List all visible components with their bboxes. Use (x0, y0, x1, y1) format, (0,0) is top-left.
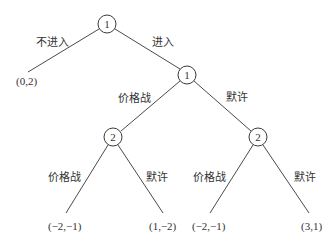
edge-label-not-enter: 不进入 (36, 36, 69, 49)
decision-node-root: 1 (98, 15, 116, 33)
node-player-label: 2 (255, 131, 261, 143)
edge-n1-price-war (121, 81, 180, 131)
game-tree-diagram: 1 1 2 2 不进入 进入 价格战 默许 价格战 默许 价格战 默许 (0,2… (0, 0, 335, 243)
node-player-label: 2 (110, 131, 116, 143)
edge-label-price-war: 价格战 (193, 170, 226, 184)
payoff-leaf: (0,2) (16, 75, 37, 88)
edge-label-acquiesce: 默许 (146, 171, 168, 184)
edge-label-acquiesce: 默许 (226, 91, 248, 104)
edge-label-price-war: 价格战 (48, 170, 81, 184)
payoff-leaf: (−2,−1) (192, 220, 226, 233)
edge-label-acquiesce: 默许 (294, 171, 316, 184)
payoff-leaf: (1,−2) (149, 220, 177, 233)
decision-node-n2b: 2 (249, 128, 267, 146)
node-player-label: 1 (184, 69, 190, 81)
edge-root-enter (115, 29, 180, 69)
edge-label-enter: 进入 (152, 36, 174, 49)
node-player-label: 1 (104, 18, 110, 30)
payoff-leaf: (3,1) (301, 220, 322, 233)
payoff-leaf: (−2,−1) (48, 220, 82, 233)
edge-n1-acquiesce (194, 81, 251, 131)
decision-node-n1: 1 (178, 66, 196, 84)
decision-node-n2a: 2 (104, 128, 122, 146)
edge-label-price-war: 价格战 (118, 91, 151, 105)
